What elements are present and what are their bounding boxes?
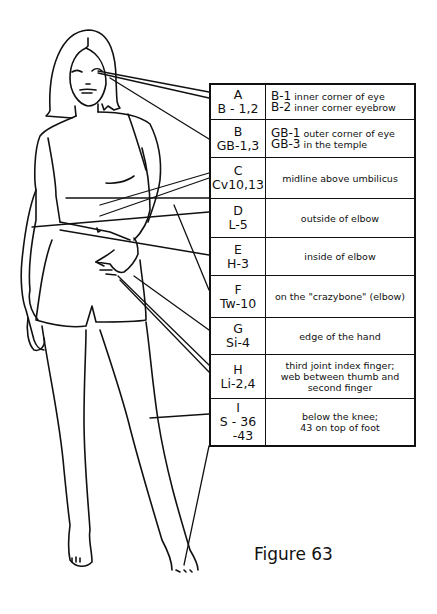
point-id: GB-3 — [271, 137, 301, 151]
point-location: web between thumb and — [281, 371, 400, 382]
face-outline — [70, 48, 106, 106]
point-letter: I — [236, 401, 240, 415]
point-location: on the "crazybone" (elbow) — [275, 291, 405, 302]
point-location: inner corner of eye — [294, 91, 385, 102]
table-row-e: EH-3 inside of elbow — [211, 238, 414, 276]
breast — [106, 176, 134, 183]
point-location: inner corner eyebrow — [294, 102, 396, 113]
desc-line: B-2 inner corner eyebrow — [271, 102, 396, 113]
point-letter: D — [233, 204, 243, 218]
waist — [60, 222, 130, 240]
point-location: second finger — [308, 382, 373, 393]
point-id: B-2 — [271, 100, 291, 114]
table-row-g: GSi-4 edge of the hand — [211, 318, 414, 355]
point-number: -43 — [223, 429, 253, 443]
point-code: FTw-10 — [211, 276, 266, 317]
point-description: on the "crazybone" (elbow) — [266, 276, 414, 317]
eye-right — [92, 69, 102, 71]
point-code: BGB-1,3 — [211, 120, 266, 157]
arm-left — [21, 190, 44, 350]
point-location: in the temple — [304, 139, 368, 150]
point-letter: B — [234, 125, 243, 139]
point-number: Si-4 — [226, 336, 250, 350]
table-row-a: AB - 1,2 B-1 inner corner of eye B-2 inn… — [211, 85, 414, 120]
point-location: midline above umbilicus — [282, 173, 398, 184]
leg-left-outer — [42, 326, 92, 566]
chest-line — [48, 138, 60, 222]
point-code: CCv10,13 — [211, 158, 266, 198]
point-location: edge of the hand — [299, 331, 380, 342]
point-number: L-5 — [228, 218, 247, 232]
point-description: inside of elbow — [266, 238, 414, 275]
point-description: edge of the hand — [266, 318, 414, 354]
point-location: outer corner of eye — [304, 128, 395, 139]
point-description: below the knee; 43 on top of foot — [266, 399, 414, 445]
leader-lines — [32, 71, 209, 565]
point-location: inside of elbow — [304, 251, 375, 262]
point-number: GB-1,3 — [217, 139, 260, 153]
point-location: outside of elbow — [301, 213, 379, 224]
table-row-f: FTw-10 on the "crazybone" (elbow) — [211, 276, 414, 318]
point-letter: E — [234, 243, 242, 257]
point-code: DL-5 — [211, 199, 266, 237]
point-number: B - 1,2 — [218, 102, 259, 116]
point-letter: C — [234, 164, 243, 178]
point-number: S - 36 — [220, 415, 256, 429]
table-row-d: DL-5 outside of elbow — [211, 199, 414, 238]
point-number: H-3 — [227, 257, 249, 271]
point-location: third joint index finger; — [285, 360, 394, 371]
point-code: GSi-4 — [211, 318, 266, 354]
point-number: Li-2,4 — [221, 377, 256, 391]
desc-line: GB-3 in the temple — [271, 139, 367, 150]
point-location: below the knee; — [302, 411, 378, 422]
table-row-h: HLi-2,4 third joint index finger; web be… — [211, 355, 414, 399]
point-description: midline above umbilicus — [266, 158, 414, 198]
point-code: EH-3 — [211, 238, 266, 275]
point-number: Cv10,13 — [212, 178, 264, 192]
point-letter: H — [233, 363, 242, 377]
point-letter: G — [233, 322, 243, 336]
hair-part — [86, 38, 88, 48]
shorts — [36, 240, 146, 327]
acupoint-table: AB - 1,2 B-1 inner corner of eye B-2 inn… — [209, 83, 416, 447]
torso-left — [29, 116, 76, 320]
table-row-b: BGB-1,3 GB-1 outer corner of eye GB-3 in… — [211, 120, 414, 158]
foot-right — [176, 570, 192, 572]
point-description: third joint index finger; web between th… — [266, 355, 414, 398]
point-description: outside of elbow — [266, 199, 414, 237]
table-row-i: IS - 36-43 below the knee; 43 on top of … — [211, 399, 414, 445]
point-code: HLi-2,4 — [211, 355, 266, 398]
mouth — [80, 89, 96, 93]
shoulder-right — [128, 114, 146, 170]
table-row-c: CCv10,13 midline above umbilicus — [211, 158, 414, 199]
point-description: B-1 inner corner of eye B-2 inner corner… — [266, 85, 414, 119]
point-location: 43 on top of foot — [300, 422, 379, 433]
point-letter: A — [234, 88, 243, 102]
toes-left — [72, 557, 80, 562]
point-letter: F — [234, 283, 241, 297]
eye-left — [72, 71, 82, 73]
hand — [96, 238, 138, 273]
point-description: GB-1 outer corner of eye GB-3 in the tem… — [266, 120, 414, 157]
leg-right-outer — [100, 330, 172, 570]
figure-caption: Figure 63 — [254, 544, 333, 564]
point-code: IS - 36-43 — [211, 399, 266, 445]
point-code: AB - 1,2 — [211, 85, 266, 119]
point-number: Tw-10 — [220, 297, 256, 311]
